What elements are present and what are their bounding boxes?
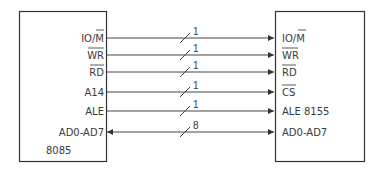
left-pin-ad0-ad7: AD0-AD7	[59, 127, 104, 138]
left-pin-iom: IO/M	[81, 33, 104, 44]
bus-width-label: 1	[193, 43, 199, 54]
left-pin-wr: WR	[87, 50, 104, 61]
interface-diagram: IO/M WR RD A14 ALE AD0-AD7 8085 IO/M WR …	[0, 0, 381, 173]
right-pin-cs: CS	[282, 87, 295, 98]
right-pin-rd: RD	[282, 67, 297, 78]
left-pin-a14: A14	[84, 87, 104, 98]
bus-width-label: 8	[193, 120, 199, 131]
left-pin-rd: RD	[89, 67, 104, 78]
right-pin-iom: IO/M	[282, 33, 305, 44]
bus-width-label: 1	[193, 60, 199, 71]
right-pin-ad0-ad7: AD0-AD7	[282, 127, 327, 138]
left-pin-ale: ALE	[85, 106, 104, 117]
bus-width-label: 1	[193, 99, 199, 110]
right-pin-wr: WR	[282, 50, 299, 61]
bus-width-label: 1	[193, 26, 199, 37]
bus-width-label: 1	[193, 80, 199, 91]
right-pin-ale: ALE 8155	[282, 106, 329, 117]
chip-8085-name: 8085	[46, 145, 71, 156]
